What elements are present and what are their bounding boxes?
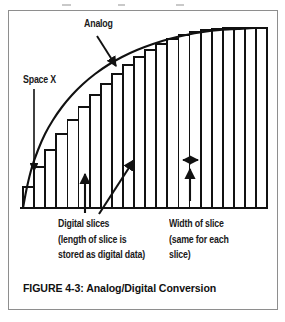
digital-slice-bar [167, 39, 178, 208]
label-width-of-slice-line3: slice) [169, 247, 229, 263]
digital-slice-bar [156, 44, 167, 208]
scan-artifact-mark [62, 4, 71, 6]
figure-root: Analog Space X Digital slices (length of… [0, 0, 285, 322]
digital-slice-bar [234, 28, 245, 208]
digital-slices-arrow-right [99, 160, 134, 214]
digital-slice-bar [245, 28, 256, 208]
digital-slice-bar [34, 167, 45, 208]
label-width-of-slice-line2: (same for each [169, 232, 229, 248]
digital-slice-bar [112, 74, 123, 208]
label-digital-slices-line3: stored as digital data) [58, 247, 145, 263]
digital-slice-bar [223, 28, 234, 208]
label-analog: Analog [84, 18, 113, 30]
digital-slice-bar [67, 120, 78, 208]
digital-slice-bar [145, 50, 156, 208]
analog-pointer-arrow [97, 36, 116, 66]
digital-slice-bar [123, 65, 134, 208]
digital-slice-bar [90, 95, 101, 208]
digital-slice-bar [178, 35, 189, 208]
digital-slice-bar [45, 150, 56, 208]
label-space-x: Space X [23, 74, 56, 86]
label-width-of-slice: Width of slice (same for each slice) [169, 216, 237, 263]
figure-frame: Analog Space X Digital slices (length of… [8, 10, 278, 310]
scan-artifact-mark [176, 4, 184, 6]
label-width-of-slice-line1: Width of slice [169, 216, 229, 232]
digital-slice-bar [256, 28, 267, 208]
analog-digital-conversion-diagram [9, 11, 276, 308]
digital-slice-bar [56, 134, 67, 208]
label-digital-slices-line2: (length of slice is [58, 232, 145, 248]
digital-slice-bar [201, 30, 212, 208]
label-digital-slices: Digital slices (length of slice is store… [58, 216, 157, 263]
figure-caption: FIGURE 4-3: Analog/Digital Conversion [23, 282, 216, 294]
scan-artifact [0, 0, 285, 9]
digital-slice-bar [101, 84, 112, 208]
label-digital-slices-line1: Digital slices [58, 216, 145, 232]
digital-slice-bar [212, 29, 223, 208]
digital-slice-bar [190, 32, 201, 208]
digital-slices-group [23, 28, 267, 208]
scan-artifact-mark [118, 4, 125, 6]
digital-slice-bar [134, 57, 145, 208]
